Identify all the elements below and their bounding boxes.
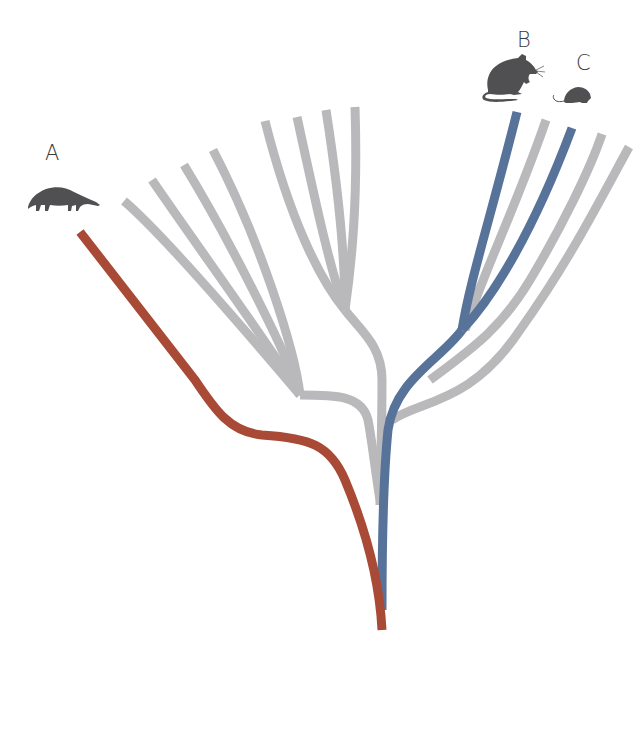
label-a: A bbox=[45, 141, 59, 165]
phylogenetic-tree bbox=[0, 0, 643, 753]
label-c: C bbox=[576, 51, 591, 75]
gray-tip-8 bbox=[345, 107, 356, 310]
blue-lineage bbox=[382, 112, 572, 610]
rat-silhouette-icon bbox=[482, 54, 545, 102]
blue-stem bbox=[382, 330, 462, 610]
gray-tip-9 bbox=[392, 147, 629, 420]
anteater-silhouette-icon bbox=[28, 187, 100, 211]
mouse-silhouette-icon bbox=[553, 87, 591, 103]
gray-tip-2 bbox=[152, 180, 300, 395]
label-b: B bbox=[517, 28, 531, 52]
